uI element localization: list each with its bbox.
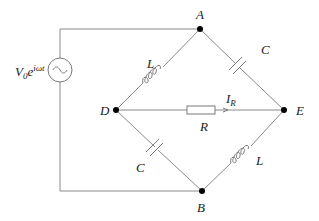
bridge-circuit-diagram: V0eiωt L C R IR C L A B D xyxy=(0,0,319,221)
source-label: V0eiωt xyxy=(15,63,45,81)
wire-source-to-B xyxy=(60,82,202,191)
node-D xyxy=(113,107,119,113)
label-node-A: A xyxy=(195,7,204,22)
capacitor-AE xyxy=(200,29,284,110)
wire-source-to-A xyxy=(60,29,200,58)
label-L-DA: L xyxy=(146,56,154,71)
inductor-BE xyxy=(202,110,284,191)
label-L-BE: L xyxy=(255,153,263,168)
node-B xyxy=(199,188,205,194)
resistor-DE xyxy=(116,106,284,114)
label-current-IR: IR xyxy=(225,91,236,108)
label-C-AE: C xyxy=(261,42,270,57)
capacitor-DB xyxy=(116,110,202,191)
label-node-B: B xyxy=(197,200,205,215)
node-E xyxy=(281,107,287,113)
label-node-E: E xyxy=(295,103,304,118)
label-node-D: D xyxy=(99,103,110,118)
label-C-DB: C xyxy=(136,160,145,175)
label-R: R xyxy=(199,119,208,134)
node-A xyxy=(197,26,203,32)
inductor-DA xyxy=(116,29,200,110)
ac-source-icon xyxy=(48,58,72,82)
